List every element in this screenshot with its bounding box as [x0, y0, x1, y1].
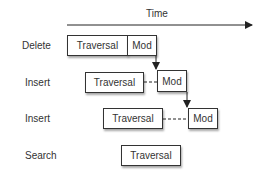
- row-label-delete: Delete: [22, 40, 51, 51]
- delete-mod-box: Mod: [127, 35, 157, 56]
- insert1-mod-box: Mod: [157, 70, 187, 92]
- insert2-mod-box: Mod: [188, 108, 218, 129]
- insert2-traversal-box: Traversal: [103, 108, 163, 129]
- row-label-search: Search: [25, 150, 57, 161]
- search-traversal-box: Traversal: [121, 145, 181, 166]
- row-label-insert-2: Insert: [25, 113, 50, 124]
- insert1-traversal-box: Traversal: [85, 72, 144, 93]
- row-label-insert-1: Insert: [25, 77, 50, 88]
- time-axis-label: Time: [146, 8, 168, 19]
- delete-traversal-box: Traversal: [67, 35, 128, 56]
